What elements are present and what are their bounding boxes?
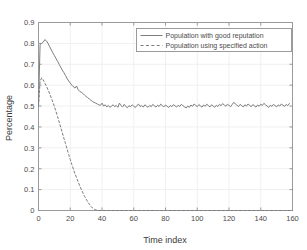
y-tick-label: 0.2 (24, 165, 34, 174)
legend-label-2[interactable]: Population using specified action (166, 42, 268, 50)
x-tick-label: 100 (191, 214, 204, 223)
chart-legend[interactable]: Population with good reputationPopulatio… (137, 29, 292, 52)
x-tick-label: 160 (286, 214, 299, 223)
y-axis-title: Percentage (4, 95, 14, 141)
x-axis-title: Time index (143, 235, 187, 245)
y-tick-label: 0.9 (24, 18, 34, 27)
x-tick-label: 40 (98, 214, 106, 223)
x-tick-label: 120 (223, 214, 236, 223)
x-tick-label: 140 (254, 214, 267, 223)
x-tick-label: 20 (66, 214, 74, 223)
x-tick-label: 0 (36, 214, 40, 223)
y-tick-label: 0 (30, 206, 34, 215)
y-tick-label: 0.7 (24, 60, 34, 69)
x-tick-label: 60 (130, 214, 138, 223)
y-tick-label: 0.6 (24, 81, 34, 90)
y-tick-label: 0.5 (24, 102, 34, 111)
y-tick-label: 0.1 (24, 185, 34, 194)
y-tick-label: 0.4 (24, 123, 34, 132)
y-tick-label: 0.3 (24, 144, 34, 153)
y-tick-label: 0.8 (24, 39, 34, 48)
chart-container: 020406080100120140160 00.10.20.30.40.50.… (0, 0, 307, 250)
percentage-vs-time-line-chart: 020406080100120140160 00.10.20.30.40.50.… (0, 0, 307, 250)
x-tick-label: 80 (161, 214, 169, 223)
legend-label-1[interactable]: Population with good reputation (166, 32, 264, 40)
